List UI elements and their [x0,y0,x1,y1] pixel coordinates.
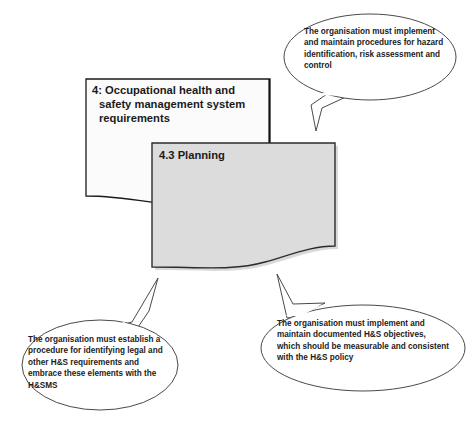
planning-shape-label: 4.3 Planning [159,148,319,162]
callout-legal-requirements-text: The organisation must establish a proced… [28,334,174,391]
callout-hazard-identification-text: The organisation must implement and main… [304,26,444,72]
section-4-box-label: 4: Occupational health and safety manage… [92,83,275,126]
diagram-canvas: 4: Occupational health and safety manage… [0,0,474,428]
callout-hs-objectives-text: The organisation must implement and main… [277,318,449,364]
